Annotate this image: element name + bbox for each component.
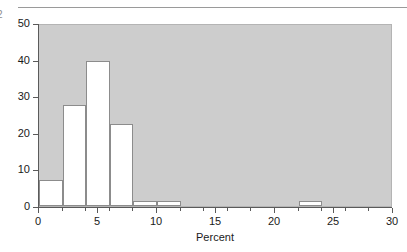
x-tick-major [215,208,216,213]
x-tick-minor [250,208,251,211]
x-tick-label: 20 [254,215,294,228]
x-tick-label: 25 [313,215,353,228]
y-axis-line [38,24,39,208]
y-tick [33,24,38,25]
plot-area [38,24,392,207]
x-tick-major [156,208,157,213]
x-tick-label: 15 [195,215,235,228]
x-tick-label: 0 [18,215,58,228]
histogram-figure: 051015202530 01020304050 Percent [0,0,407,252]
y-tick-label: 50 [0,18,30,29]
x-tick-minor [62,208,63,211]
x-tick-label: 10 [136,215,176,228]
x-tick-minor [345,208,346,211]
x-tick-major [333,208,334,213]
x-axis-title: Percent [38,231,392,244]
x-tick-label: 5 [77,215,117,228]
x-tick-minor [109,208,110,211]
x-tick-minor [227,208,228,211]
x-tick-minor [180,208,181,211]
x-tick-minor [321,208,322,211]
x-tick-major [274,208,275,213]
y-tick-label: 40 [0,55,30,66]
y-tick-label: 0 [0,201,30,212]
y-tick [33,61,38,62]
bars-layer [39,25,391,206]
histogram-bar [39,180,63,206]
y-tick [33,170,38,171]
x-tick-label: 30 [372,215,407,228]
x-tick-minor [85,208,86,211]
y-tick-label: 20 [0,128,30,139]
x-tick-major [97,208,98,213]
histogram-bar [86,61,110,206]
histogram-bar [157,201,181,206]
y-tick [33,207,38,208]
x-tick-minor [203,208,204,211]
histogram-bar [133,201,157,206]
x-tick-minor [298,208,299,211]
x-tick-major [38,208,39,213]
x-tick-minor [132,208,133,211]
histogram-bar [63,105,87,206]
y-tick [33,134,38,135]
y-tick [33,97,38,98]
x-tick-minor [368,208,369,211]
y-tick-label: 10 [0,164,30,175]
x-tick-major [392,208,393,213]
y-tick-label: 30 [0,91,30,102]
histogram-bar [110,124,134,206]
histogram-bar [299,201,323,206]
